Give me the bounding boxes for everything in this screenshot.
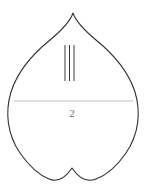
leaf-diagram-svg: 2 [0,0,146,191]
figure-canvas: 2 [0,0,146,191]
figure-number-label: 2 [69,107,75,119]
leaf-outline-path [8,13,138,180]
